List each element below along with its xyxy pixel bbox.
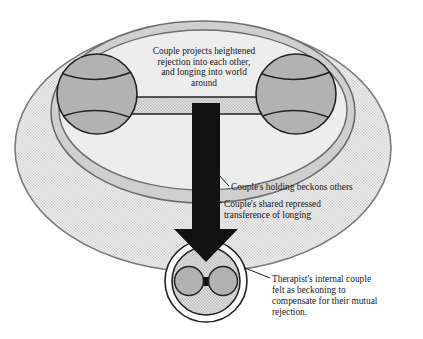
left-partner-circle (57, 54, 137, 134)
therapist-label-line1: Therapist's internal couple (272, 274, 371, 284)
top-caption: Couple projects heightened rejection int… (128, 46, 280, 88)
therapist-leader-line (245, 268, 270, 278)
therapist-label: Therapist's internal couple felt as beck… (272, 274, 422, 318)
holding-label: Couple's holding beckons others (231, 182, 353, 193)
top-caption-line2: rejection into each other, (158, 57, 251, 67)
transference-label-line1: Couple's shared repressed (224, 199, 321, 209)
transference-label-line2: transference of longing (224, 210, 311, 220)
top-caption-line1: Couple projects heightened (153, 46, 256, 56)
transference-label: Couple's shared repressed transference o… (224, 199, 321, 221)
top-caption-line4: around (191, 78, 217, 88)
therapist-label-line2: felt as beckoning to (272, 285, 346, 295)
diagram-canvas: Couple projects heightened rejection int… (0, 0, 423, 339)
top-caption-line3: and longing into world (161, 67, 247, 77)
therapist-label-line3: compensate for their mutual (272, 296, 377, 306)
therapist-label-line4: rejection. (272, 307, 307, 317)
